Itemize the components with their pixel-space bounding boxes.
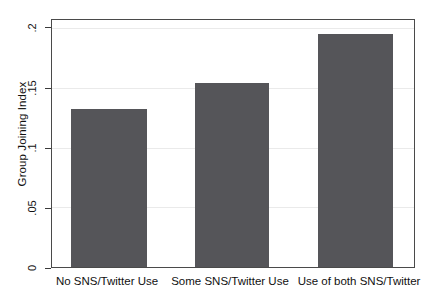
y-tick-mark-0: [45, 268, 51, 269]
y-tick-label-0-text: 0: [26, 265, 38, 271]
y-tick-label-1: .05: [19, 201, 45, 215]
gridline-0.2: [52, 28, 414, 29]
x-axis-label-use-of-both-sns-twitter: Use of both SNS/Twitter: [292, 273, 426, 289]
y-tick-label-4: .2: [19, 21, 45, 35]
bar-some-sns-twitter-use: [195, 83, 269, 267]
y-axis-title-text: Group Joining Index: [16, 82, 28, 187]
bar-chart-figure: Group Joining Index 0 .05 .1 .15 .2 No S…: [0, 0, 434, 301]
plot-area: [51, 19, 415, 268]
y-tick-label-2: .1: [19, 141, 45, 155]
y-tick-label-3-text: .15: [26, 80, 38, 95]
x-axis-label-no-sns-twitter-use: No SNS/Twitter Use: [47, 273, 167, 289]
y-tick-label-1-text: .05: [26, 200, 38, 215]
y-tick-label-2-text: .1: [26, 143, 38, 152]
y-tick-label-0: 0: [19, 261, 45, 275]
y-tick-label-3: .15: [19, 81, 45, 95]
y-tick-label-4-text: .2: [26, 23, 38, 32]
x-axis-label-some-sns-twitter-use: Some SNS/Twitter Use: [170, 273, 290, 289]
bar-use-of-both-sns-twitter: [318, 34, 393, 267]
bar-no-sns-twitter-use: [71, 109, 147, 267]
y-axis-title: Group Joining Index: [10, 0, 34, 268]
